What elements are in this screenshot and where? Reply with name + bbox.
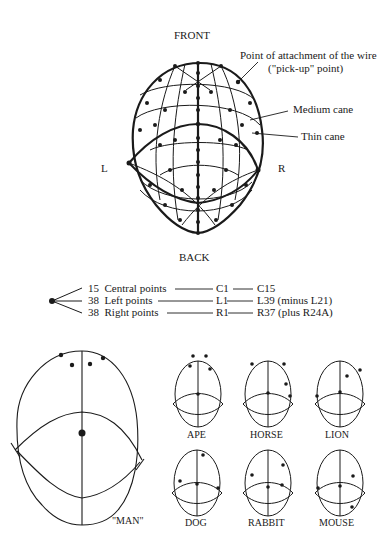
animal-label-mouse: MOUSE — [319, 517, 354, 528]
animal-label-ape: APE — [187, 429, 206, 440]
animal-label-dog: DOG — [185, 517, 207, 528]
animal-label-rabbit: RABBIT — [248, 517, 285, 528]
animal-heads — [0, 0, 390, 556]
animal-label-lion: LION — [325, 429, 349, 440]
animal-label-horse: HORSE — [250, 429, 283, 440]
